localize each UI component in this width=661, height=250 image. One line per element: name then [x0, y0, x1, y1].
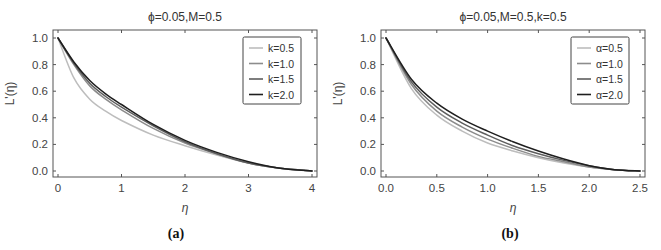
- y-tick-label: 0.4: [32, 112, 49, 124]
- legend-label: k=0.5: [268, 42, 294, 54]
- y-tick-label: 0.0: [360, 165, 376, 177]
- legend-label: k=1.0: [268, 58, 294, 70]
- x-tick-label: 2.5: [632, 182, 648, 194]
- x-tick-label: 0: [55, 182, 61, 194]
- chart-title: ϕ=0.05,M=0.5: [148, 10, 222, 24]
- x-tick-label: 1: [118, 182, 124, 194]
- x-tick-label: 0.0: [378, 182, 394, 194]
- y-tick-label: 1.0: [360, 32, 376, 44]
- y-tick-label: 0.8: [360, 59, 376, 71]
- chart-panel-b: ϕ=0.05,M=0.5,k=0.50.00.20.40.60.81.00.00…: [328, 0, 658, 250]
- y-tick-label: 0.4: [360, 112, 377, 124]
- x-tick-label: 1.0: [480, 182, 496, 194]
- line-chart: ϕ=0.05,M=0.50.00.20.40.60.81.001234ηL'(η…: [0, 0, 330, 250]
- y-tick-label: 0.8: [32, 59, 48, 71]
- legend-label: α=0.5: [596, 42, 623, 54]
- y-tick-label: 1.0: [32, 32, 48, 44]
- x-tick-label: 2.0: [581, 182, 597, 194]
- x-axis-label: η: [510, 201, 517, 215]
- legend-label: α=1.5: [596, 73, 623, 85]
- legend: k=0.5k=1.0k=1.5k=2.0: [243, 37, 301, 104]
- y-axis-label: L'(η): [331, 82, 345, 106]
- x-tick-label: 4: [309, 182, 316, 194]
- line-chart: ϕ=0.05,M=0.5,k=0.50.00.20.40.60.81.00.00…: [328, 0, 658, 250]
- caption-a: (a): [146, 226, 206, 242]
- caption-b: (b): [480, 226, 540, 242]
- y-tick-label: 0.0: [32, 165, 48, 177]
- x-tick-label: 0.5: [429, 182, 445, 194]
- x-axis-label: η: [182, 201, 189, 215]
- y-axis-label: L'(η): [3, 82, 17, 106]
- x-tick-label: 3: [245, 182, 251, 194]
- legend-label: α=1.0: [596, 58, 623, 70]
- chart-title: ϕ=0.05,M=0.5,k=0.5: [459, 10, 566, 24]
- y-tick-label: 0.2: [360, 138, 376, 150]
- y-tick-label: 0.2: [32, 138, 48, 150]
- chart-panel-a: ϕ=0.05,M=0.50.00.20.40.60.81.001234ηL'(η…: [0, 0, 330, 250]
- legend-label: α=2.0: [596, 89, 623, 101]
- legend-label: k=2.0: [268, 89, 294, 101]
- y-tick-label: 0.6: [360, 85, 376, 97]
- legend: α=0.5α=1.0α=1.5α=2.0: [571, 37, 629, 104]
- legend-label: k=1.5: [268, 73, 294, 85]
- x-tick-label: 2: [182, 182, 188, 194]
- y-tick-label: 0.6: [32, 85, 48, 97]
- x-tick-label: 1.5: [530, 182, 546, 194]
